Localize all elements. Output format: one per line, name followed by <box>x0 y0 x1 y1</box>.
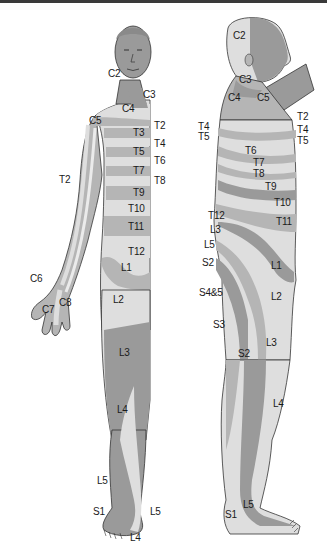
dermatome-label-l2: L2 <box>271 292 282 302</box>
dermatome-label-t2: T2 <box>59 175 70 185</box>
dermatome-label-t2: T2 <box>297 112 308 122</box>
dermatome-label-l4: L4 <box>273 399 284 409</box>
dermatome-label-s4and5: S4&5 <box>199 288 223 298</box>
dermatome-label-l4: L4 <box>130 533 141 543</box>
dermatome-label-t7: T7 <box>253 158 264 168</box>
dermatome-label-c6: C6 <box>30 274 42 284</box>
dermatome-label-c4: C4 <box>228 93 240 103</box>
dermatome-label-l5: L5 <box>150 507 161 517</box>
dermatome-label-t2: T2 <box>154 121 165 131</box>
dermatome-label-t6: T6 <box>154 156 165 166</box>
dermatome-label-s2: S2 <box>202 258 214 268</box>
dermatome-label-t7: T7 <box>133 166 144 176</box>
dermatome-label-t4: T4 <box>297 125 308 135</box>
dermatome-label-t11: T11 <box>128 222 144 232</box>
dermatome-label-t8: T8 <box>253 169 264 179</box>
dermatome-label-c3: C3 <box>239 75 251 85</box>
dermatome-label-t10: T10 <box>274 198 291 208</box>
dermatome-label-c7: C7 <box>42 305 54 315</box>
dermatome-label-s2: S2 <box>238 349 250 359</box>
dermatome-label-l3: L3 <box>210 225 221 235</box>
dermatome-label-t12: T12 <box>208 211 225 221</box>
dermatome-label-l1: L1 <box>121 263 132 273</box>
dermatome-label-l5: L5 <box>97 476 108 486</box>
dermatome-label-t6: T6 <box>245 146 256 156</box>
dermatome-label-c4: C4 <box>122 104 134 114</box>
dermatome-label-c5: C5 <box>89 116 101 126</box>
dermatome-label-t5: T5 <box>133 147 144 157</box>
dermatome-label-t5: T5 <box>198 132 209 142</box>
dermatome-label-t9: T9 <box>265 182 276 192</box>
dermatome-label-t8: T8 <box>154 176 165 186</box>
dermatome-label-s1: S1 <box>225 510 237 520</box>
dermatome-label-c3: C3 <box>143 90 155 100</box>
dermatome-label-l1: L1 <box>271 261 282 271</box>
dermatome-label-t3: T3 <box>133 128 144 138</box>
dermatome-label-l3: L3 <box>266 338 277 348</box>
dermatome-label-t9: T9 <box>133 188 144 198</box>
dermatome-label-c8: C8 <box>59 298 71 308</box>
dermatome-label-c2: C2 <box>108 69 120 79</box>
dermatome-label-t10: T10 <box>128 204 145 214</box>
dermatome-label-c2: C2 <box>233 31 245 41</box>
dermatome-label-l5: L5 <box>204 240 215 250</box>
dermatome-illustration <box>0 0 327 557</box>
dermatome-label-t5: T5 <box>297 136 308 146</box>
dermatome-label-s3: S3 <box>213 320 225 330</box>
dermatome-label-l4: L4 <box>117 405 128 415</box>
dermatome-label-l2: L2 <box>113 295 124 305</box>
dermatome-label-s1: S1 <box>93 507 105 517</box>
dermatome-label-t4: T4 <box>154 139 165 149</box>
dermatome-label-l3: L3 <box>119 348 130 358</box>
dermatome-label-c5: C5 <box>257 93 269 103</box>
dermatome-label-l5: L5 <box>243 500 254 510</box>
dermatome-label-t12: T12 <box>128 247 145 257</box>
dermatome-label-t11: T11 <box>276 217 292 227</box>
